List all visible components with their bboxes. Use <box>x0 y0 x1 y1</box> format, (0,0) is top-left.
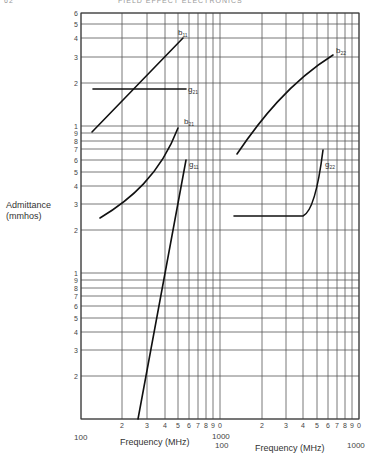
vertical-gridlines <box>81 13 359 419</box>
svg-text:6: 6 <box>74 303 78 310</box>
label-g11: g11 <box>189 160 199 170</box>
curve-g11 <box>138 160 186 419</box>
svg-text:9: 9 <box>74 277 78 284</box>
svg-text:7: 7 <box>74 146 78 153</box>
svg-text:3: 3 <box>74 347 78 354</box>
label-g22: g22 <box>325 160 335 170</box>
svg-text:9: 9 <box>350 422 354 429</box>
svg-text:6: 6 <box>187 422 191 429</box>
x-axis-label-left: Frequency (MHz) <box>120 437 190 447</box>
svg-text:8: 8 <box>204 422 208 429</box>
svg-text:5: 5 <box>315 422 319 429</box>
svg-text:3: 3 <box>145 422 149 429</box>
svg-text:8: 8 <box>74 285 78 292</box>
svg-text:2: 2 <box>74 80 78 87</box>
admittance-chart: 6 5 4 3 2 1 9 8 7 6 5 4 3 2 1 9 8 7 6 5 … <box>0 0 372 460</box>
svg-text:0: 0 <box>218 422 222 429</box>
svg-text:2: 2 <box>74 227 78 234</box>
svg-text:0: 0 <box>357 422 361 429</box>
curve-b22 <box>237 55 333 154</box>
curve-b21 <box>100 128 178 218</box>
svg-text:3: 3 <box>74 201 78 208</box>
svg-text:3: 3 <box>74 54 78 61</box>
label-b11: b11 <box>178 28 188 38</box>
curve-b11 <box>92 38 183 132</box>
label-g21: g21 <box>188 85 198 95</box>
svg-text:4: 4 <box>301 422 305 429</box>
svg-text:1: 1 <box>74 123 78 130</box>
svg-text:8: 8 <box>343 422 347 429</box>
x-tick-labels: 2 3 4 5 6 7 8 9 0 2 3 4 5 6 7 8 9 0 <box>120 422 361 429</box>
svg-text:7: 7 <box>335 422 339 429</box>
svg-text:3: 3 <box>284 422 288 429</box>
svg-text:5: 5 <box>74 315 78 322</box>
svg-text:8: 8 <box>74 138 78 145</box>
y-axis-label: Admittance (mmhos) <box>6 200 51 222</box>
svg-text:4: 4 <box>163 422 167 429</box>
svg-text:6: 6 <box>326 422 330 429</box>
y-axis-label-line1: Admittance <box>6 200 51 211</box>
svg-text:5: 5 <box>176 422 180 429</box>
svg-text:4: 4 <box>74 183 78 190</box>
svg-text:2: 2 <box>260 422 264 429</box>
svg-text:1: 1 <box>74 270 78 277</box>
svg-text:4: 4 <box>74 35 78 42</box>
svg-text:6: 6 <box>74 157 78 164</box>
svg-text:9: 9 <box>74 130 78 137</box>
y-axis-label-line2: (mmhos) <box>6 211 51 222</box>
x-decade-100-left: 100 <box>74 433 87 442</box>
x-decade-1000-mid: 1000 <box>212 432 230 441</box>
x-decade-1000-right: 1000 <box>347 441 365 450</box>
svg-text:6: 6 <box>74 10 78 17</box>
svg-text:2: 2 <box>74 373 78 380</box>
svg-text:7: 7 <box>196 422 200 429</box>
svg-text:2: 2 <box>120 422 124 429</box>
svg-text:7: 7 <box>74 293 78 300</box>
svg-text:9: 9 <box>211 422 215 429</box>
curves <box>92 38 333 419</box>
svg-text:5: 5 <box>74 169 78 176</box>
svg-text:5: 5 <box>74 21 78 28</box>
x-decade-100-mid: 100 <box>215 441 228 450</box>
svg-text:4: 4 <box>74 329 78 336</box>
y-tick-labels: 6 5 4 3 2 1 9 8 7 6 5 4 3 2 1 9 8 7 6 5 … <box>74 10 78 380</box>
x-axis-label-right: Frequency (MHz) <box>255 443 325 453</box>
